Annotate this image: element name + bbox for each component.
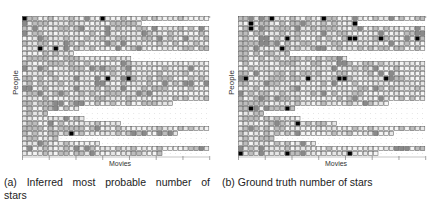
heatmap-grid-a	[22, 16, 209, 156]
caption-a: (a) Inferred most probable number of sta…	[4, 176, 210, 202]
panel-b: People Movies (b) Ground truth number of…	[216, 0, 432, 203]
y-axis-label: People	[227, 68, 236, 98]
panel-a: People Movies (a) Inferred most probable…	[0, 0, 216, 203]
x-axis-label: Movies	[90, 160, 150, 167]
heatmap-grid-b	[238, 16, 425, 156]
y-axis-label: People	[11, 68, 20, 98]
caption-b: (b) Ground truth number of stars	[222, 176, 432, 189]
x-axis-label: Movies	[306, 160, 366, 167]
